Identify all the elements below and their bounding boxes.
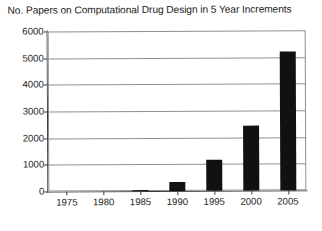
x-tick-mark-1985 [140, 191, 141, 195]
x-tick-label-1985: 1985 [120, 196, 160, 207]
x-tick-mark-1995 [214, 191, 215, 195]
x-axis-tick-marks [0, 0, 321, 1]
x-tick-mark-1980 [104, 191, 105, 195]
x-axis-tick-labels: 1975198019851990199520002005 [48, 195, 306, 212]
bar-2000 [243, 125, 259, 190]
plot-area [48, 30, 307, 191]
x-tick-label-1990: 1990 [157, 196, 197, 207]
x-tick-label-1995: 1995 [194, 196, 234, 207]
x-tick-mark-2000 [251, 191, 252, 195]
bar-2005 [279, 52, 296, 191]
chart-title: No. Papers on Computational Drug Design … [8, 2, 318, 16]
bar-1990 [169, 182, 185, 191]
y-axis-tick-marks [0, 31, 48, 192]
x-tick-mark-1990 [177, 191, 178, 195]
x-tick-mark-2005 [288, 190, 289, 194]
bar-1995 [206, 160, 222, 191]
x-tick-label-2000: 2000 [231, 196, 271, 207]
x-tick-mark-1975 [67, 191, 68, 195]
bar-chart-figure: No. Papers on Computational Drug Design … [0, 0, 322, 231]
x-tick-label-2005: 2005 [268, 195, 308, 206]
x-tick-label-1980: 1980 [84, 196, 124, 207]
x-tick-label-1975: 1975 [47, 196, 87, 207]
